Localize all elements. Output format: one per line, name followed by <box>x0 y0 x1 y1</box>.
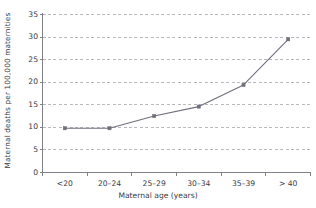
data-series-line <box>65 39 288 128</box>
x-axis-tick-labels: <2020–2425–2930–3435–39> 40 <box>0 179 316 191</box>
chart-figure: Maternal deaths per 100,000 maternities … <box>0 0 316 208</box>
x-axis-title: Maternal age (years) <box>0 191 316 200</box>
x-axis-tick-label: 35–39 <box>232 179 255 188</box>
x-axis-tick-label: > 40 <box>279 179 297 188</box>
axis-lines <box>43 13 311 173</box>
x-axis-tick-label: <20 <box>57 179 73 188</box>
plot-area <box>0 0 316 208</box>
x-axis-tick-label: 20–24 <box>98 179 121 188</box>
gridlines <box>43 15 311 150</box>
x-axis-tick-label: 30–34 <box>187 179 210 188</box>
data-series-markers <box>63 38 290 130</box>
x-axis-tick-label: 25–29 <box>143 179 166 188</box>
